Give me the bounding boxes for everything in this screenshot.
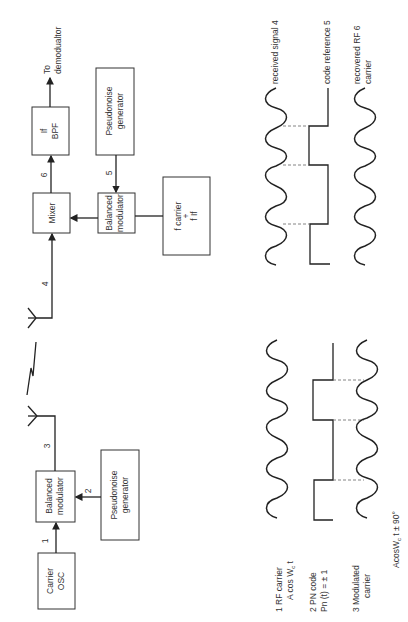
code-reference-wave bbox=[309, 88, 330, 264]
node-label-6: 6 bbox=[39, 172, 49, 177]
rx-balanced-modulator-block: Balanced modulator bbox=[98, 193, 135, 233]
signal-line-4 bbox=[36, 234, 52, 318]
code-reference-label: code reference 5 bbox=[322, 20, 332, 84]
output-label-2: demodualtor bbox=[53, 27, 63, 74]
carrier-osc-block: Carrier OSC bbox=[38, 553, 75, 609]
transmitter-section: Carrier OSC 1 Balanced modulator Pseudon… bbox=[27, 342, 139, 609]
received-signal-wave bbox=[266, 88, 287, 265]
if-bpf-block: If BPF bbox=[32, 107, 69, 155]
tx-waveforms: 1 RF carrier A cos Wc t 2 PN code Pn (t)… bbox=[267, 340, 403, 612]
local-oscillator-block: f carrier + f If bbox=[163, 177, 210, 255]
node-label-4: 4 bbox=[40, 281, 50, 286]
recovered-carrier-label-1: recovered RF 6 bbox=[352, 25, 362, 84]
modulated-carrier-label-2: carrier bbox=[362, 574, 372, 598]
modulated-carrier-label-1: 3 Modulated bbox=[351, 565, 361, 612]
spread-spectrum-diagram: Carrier OSC 1 Balanced modulator Pseudon… bbox=[0, 0, 408, 622]
carrier-osc-label-2: OSC bbox=[56, 572, 66, 590]
if-bpf-label-1: If bbox=[39, 128, 49, 133]
modulated-carrier-formula: AcosWc t ± 90° bbox=[391, 511, 402, 568]
modulated-carrier-wave bbox=[357, 340, 378, 518]
tx-pn-label-2: generator bbox=[120, 477, 130, 514]
received-signal-label: received signal 4 bbox=[270, 20, 280, 84]
if-bpf-label-2: BPF bbox=[50, 123, 60, 140]
tx-modulator-label-2: modulator bbox=[55, 477, 65, 515]
rf-carrier-wave bbox=[267, 340, 288, 518]
rx-waveforms: received signal 4 code reference 5 recov… bbox=[266, 20, 376, 265]
rx-pn-label-2: generator bbox=[115, 93, 125, 130]
rx-modulator-label-2: modulator bbox=[115, 194, 125, 232]
rx-pn-generator-block: Pseudonoise generator bbox=[96, 68, 134, 155]
carrier-osc-label-1: Carrier bbox=[45, 568, 55, 594]
receiver-section: 4 Mixer 6 If BPF To demodualtor Balanced… bbox=[28, 27, 210, 328]
node-label-5: 5 bbox=[104, 170, 114, 175]
tx-balanced-modulator-block: Balanced modulator bbox=[36, 471, 75, 522]
tx-modulator-label-1: Balanced bbox=[44, 478, 54, 514]
local-osc-label-3: f If bbox=[189, 211, 199, 221]
rx-modulator-label-1: Balanced bbox=[104, 195, 114, 231]
mixer-label: Mixer bbox=[47, 202, 57, 223]
node-label-3: 3 bbox=[42, 443, 52, 448]
node-label-2: 2 bbox=[83, 488, 93, 493]
mixer-block: Mixer bbox=[33, 193, 70, 233]
rx-antenna-icon bbox=[28, 308, 36, 328]
pn-code-label-2: Pn (t) = ± 1 bbox=[319, 570, 329, 612]
radio-link-icon bbox=[27, 342, 36, 395]
pn-code-wave bbox=[313, 343, 333, 520]
tx-pn-generator-block: Pseudonoise generator bbox=[101, 450, 139, 540]
tx-antenna-icon bbox=[28, 406, 37, 426]
recovered-carrier-label-2: carrier bbox=[363, 60, 373, 84]
rx-pn-label-1: Pseudonoise bbox=[104, 86, 114, 135]
node-label-1: 1 bbox=[40, 538, 50, 543]
recovered-carrier-wave bbox=[355, 88, 376, 265]
tx-pn-label-1: Pseudonoise bbox=[109, 470, 119, 519]
rf-carrier-label-1: 1 RF carrier bbox=[274, 567, 284, 612]
pn-code-label-1: 2 PN code bbox=[308, 572, 318, 612]
output-label-1: To bbox=[42, 65, 52, 74]
rf-carrier-formula: A cos Wc t bbox=[285, 560, 296, 600]
signal-line-3 bbox=[37, 416, 55, 471]
